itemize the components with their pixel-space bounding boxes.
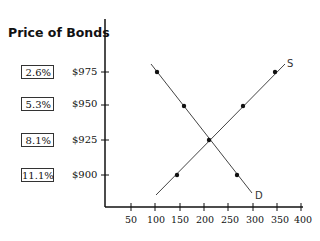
supply-label: S [287,58,293,69]
x-tick-label: 250 [221,214,239,225]
x-tick-label: 100 [147,214,165,225]
x-tick-label: 50 [125,214,137,225]
x-tick-label: 300 [246,214,264,225]
x-tick-label: 200 [196,214,214,225]
x-tick-label: 350 [271,214,289,225]
x-tick-label: 400 [294,214,312,225]
demand-label: D [255,190,263,201]
plot-area: S D [0,0,320,241]
x-tick-label: 150 [171,214,189,225]
